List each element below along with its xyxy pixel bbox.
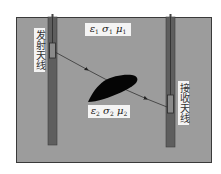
sigma-2: σ2: [103, 105, 114, 116]
sigma-1: σ1: [102, 23, 113, 34]
transmitter-label: 发射天线: [34, 28, 45, 72]
medium-2-parameters: ε2 σ2 μ2: [88, 105, 130, 118]
epsilon-1: ε1: [90, 23, 99, 34]
mu-1: μ1: [116, 23, 126, 34]
medium-1-parameters: ε1 σ1 μ1: [85, 23, 131, 36]
epsilon-2: ε2: [91, 105, 100, 116]
mu-2: μ2: [117, 105, 127, 116]
receiver-label: 接收天线: [178, 81, 189, 125]
receiver-antenna: [168, 95, 174, 113]
cross-hole-radar-diagram: ε1 σ1 μ1 ε2 σ2 μ2 发射天线 接收天线: [0, 0, 221, 174]
transmitter-antenna: [50, 43, 56, 58]
